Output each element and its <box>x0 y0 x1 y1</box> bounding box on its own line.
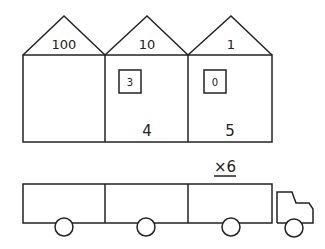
truck-trailer <box>23 184 272 223</box>
wheel-2 <box>137 218 155 236</box>
wheel-3 <box>222 218 240 236</box>
wheel-cab <box>285 219 303 237</box>
place-value-tens: 10 <box>139 37 156 52</box>
place-value-hundreds: 100 <box>52 37 77 52</box>
wheel-1 <box>55 218 73 236</box>
carry-value-tens: 3 <box>127 77 133 88</box>
place-value-diagram: 100 10 1 3 0 4 5 ×6 <box>0 0 325 249</box>
multiplier-label: ×6 <box>214 158 236 176</box>
place-value-ones: 1 <box>227 37 235 52</box>
digit-tens: 4 <box>142 122 152 140</box>
carry-value-ones: 0 <box>212 77 218 88</box>
digit-ones: 5 <box>225 122 235 140</box>
